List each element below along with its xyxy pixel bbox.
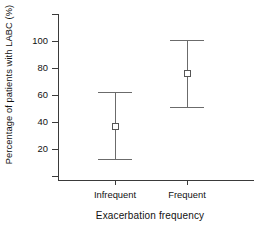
y-tick-label-60: 60: [8, 90, 48, 99]
y-tick-0: [52, 176, 58, 177]
y-tick-40: [52, 122, 58, 123]
data-point-frequent: [184, 70, 191, 77]
y-tick-label-80: 80: [8, 63, 48, 72]
y-tick-label-100: 100: [8, 36, 48, 45]
y-tick-80: [52, 68, 58, 69]
x-tick-frequent: [187, 180, 188, 185]
chart-figure: Percentage of patients with LABC (%) 100…: [0, 0, 270, 233]
y-tick-120: [52, 14, 58, 15]
errorbar-cap-lower-infrequent: [98, 159, 132, 160]
data-point-infrequent: [112, 123, 119, 130]
x-tick-label-frequent: Frequent: [142, 190, 232, 199]
y-axis-line: [58, 14, 59, 181]
y-tick-label-20: 20: [8, 144, 48, 153]
y-tick-20: [52, 149, 58, 150]
x-axis-title: Exacerbation frequency: [40, 210, 260, 221]
y-tick-100: [52, 41, 58, 42]
y-tick-label-40: 40: [8, 117, 48, 126]
x-tick-infrequent: [115, 180, 116, 185]
x-axis-line: [58, 180, 254, 181]
plot-area: 100 80 60 40 20 Infrequent Frequent: [0, 0, 270, 233]
errorbar-cap-lower-frequent: [170, 107, 204, 108]
y-tick-60: [52, 95, 58, 96]
